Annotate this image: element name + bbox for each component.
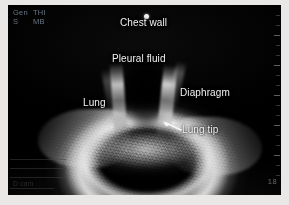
annotation-lung-tip: Lung tip <box>182 124 218 135</box>
annotation-lung: Lung <box>83 97 106 108</box>
panel-divider-3 <box>10 177 66 178</box>
preset-sub-label: S <box>13 17 18 26</box>
depth-scale-ticks <box>274 15 281 185</box>
depth-marker-label: 18 <box>268 177 277 186</box>
panel-divider-4 <box>10 188 54 189</box>
panel-divider-2 <box>10 168 66 169</box>
panel-divider-1 <box>10 159 66 160</box>
preset-beam-label: MB <box>33 17 45 26</box>
panel-line-3: D cam <box>13 180 33 188</box>
preset-harmonic-label: THI <box>33 8 46 17</box>
annotation-diaphragm: Diaphragm <box>180 87 230 98</box>
ultrasound-canvas[interactable]: Gen THI S MB Chest wall Pleural fluid Di… <box>8 5 281 195</box>
preset-mode-label: Gen <box>13 8 28 17</box>
lung-tip-arrow-icon <box>158 119 182 133</box>
annotation-pleural-fluid: Pleural fluid <box>112 53 166 64</box>
annotation-chest-wall: Chest wall <box>120 17 167 28</box>
image-frame: Gen THI S MB Chest wall Pleural fluid Di… <box>0 0 289 205</box>
